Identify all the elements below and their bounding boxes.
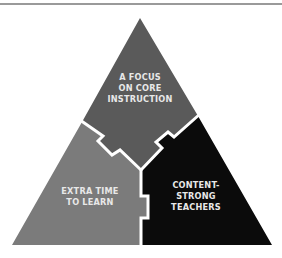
label-right-line-3: TEACHERS [171, 202, 221, 212]
label-right: CONTENT- STRONG TEACHERS [171, 180, 221, 212]
label-right-line-1: CONTENT- [172, 180, 219, 190]
label-right-line-2: STRONG [176, 191, 216, 201]
label-left-line-2: TO LEARN [66, 197, 113, 207]
label-top-line-2: ON CORE [119, 83, 162, 93]
label-top-line-1: A FOCUS [119, 72, 161, 82]
label-left-line-1: EXTRA TIME [61, 186, 118, 196]
triangle-diagram: A FOCUS ON CORE INSTRUCTION EXTRA TIME T… [0, 0, 282, 258]
label-left: EXTRA TIME TO LEARN [61, 186, 118, 207]
label-top-line-3: INSTRUCTION [108, 94, 173, 104]
